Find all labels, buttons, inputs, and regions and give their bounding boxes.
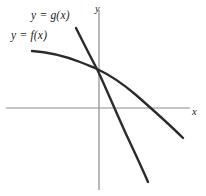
curve-g [76,28,148,182]
graph-figure: y = g(x) y = f(x) y x [0,0,206,196]
y-axis-label: y [95,4,100,15]
curve-g-label: y = g(x) [31,10,70,22]
x-axis-label: x [192,107,197,118]
curve-f-label: y = f(x) [11,30,47,42]
